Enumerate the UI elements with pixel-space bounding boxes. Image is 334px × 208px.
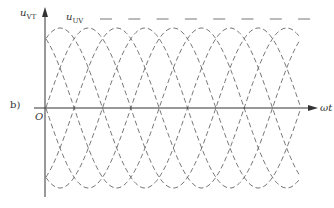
waveform-diagram <box>0 0 334 208</box>
curve-label: uUV <box>66 12 83 25</box>
x-axis-label: ωt <box>320 103 332 113</box>
y-axis-arrow-icon <box>42 7 48 17</box>
origin-label: O <box>35 112 43 122</box>
panel-label: b) <box>10 100 20 110</box>
x-axis-arrow-icon <box>308 105 318 111</box>
y-axis-label: uVT <box>20 8 36 21</box>
